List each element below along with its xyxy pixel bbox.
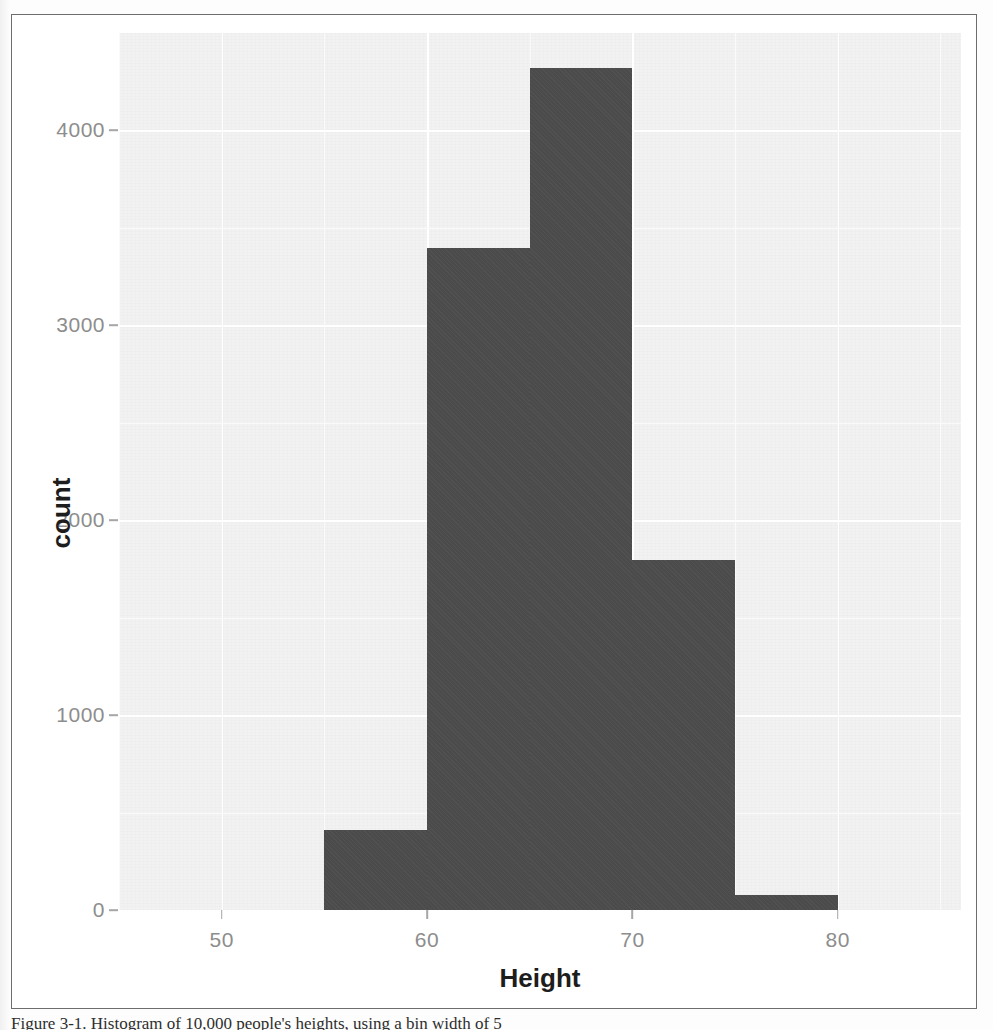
bar-texture (735, 895, 838, 910)
y-axis-tick-label: 4000 (56, 118, 105, 142)
gridline-minor-vertical (940, 33, 941, 910)
x-axis-tick-label: 70 (620, 928, 644, 952)
x-axis-tick-label: 50 (209, 928, 233, 952)
histogram-bar (324, 830, 427, 910)
y-axis-tick-label: 1000 (56, 703, 105, 727)
bar-texture (324, 830, 427, 910)
x-axis-tick-mark (221, 910, 223, 919)
y-axis-tick-label: 3000 (56, 313, 105, 337)
gridline-major-vertical (222, 33, 224, 910)
y-axis-tick-mark (109, 519, 118, 521)
x-axis-tick-label: 60 (415, 928, 439, 952)
y-axis-tick-mark (109, 909, 118, 911)
x-axis-tick-mark (837, 910, 839, 919)
gridline-major-vertical (838, 33, 840, 910)
bar-texture (632, 560, 735, 910)
y-axis-tick-label: 0 (93, 898, 105, 922)
x-axis: 50607080 (119, 910, 961, 956)
gridline-minor-vertical (119, 33, 120, 910)
x-axis-title: Height (119, 963, 961, 994)
histogram-bar (632, 560, 735, 910)
gridline-minor-vertical (324, 33, 325, 910)
histogram-bar (427, 248, 530, 910)
x-axis-tick-mark (426, 910, 428, 919)
plot-panel (119, 33, 961, 910)
y-axis-tick-mark (109, 714, 118, 716)
histogram-bar (530, 68, 633, 910)
figure-caption: Figure 3-1. Histogram of 10,000 people's… (11, 1014, 977, 1030)
x-axis-tick-label: 80 (826, 928, 850, 952)
y-axis-tick-mark (109, 130, 118, 132)
histogram-bar (735, 895, 838, 910)
x-axis-tick-mark (632, 910, 634, 919)
bar-texture (427, 248, 530, 910)
y-axis-title: count (46, 478, 77, 549)
gridline-minor-vertical (735, 33, 736, 910)
bar-texture (530, 68, 633, 910)
figure-frame: 01000200030004000 50607080 Height count (11, 14, 977, 1009)
plot-area: 01000200030004000 50607080 Height count (12, 15, 978, 1010)
scanned-page: 01000200030004000 50607080 Height count … (0, 0, 993, 1030)
y-axis-tick-mark (109, 325, 118, 327)
